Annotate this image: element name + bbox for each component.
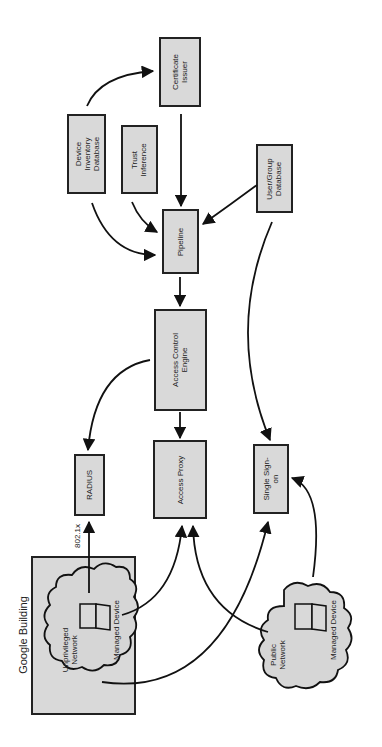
svg-text:Single Sign-: Single Sign- — [262, 457, 271, 500]
managed-device-external-label: Managed Device — [329, 599, 338, 660]
svg-text:Unprivileged: Unprivileged — [61, 628, 70, 672]
svg-text:Engine: Engine — [180, 347, 189, 372]
pipeline-node: Pipeline — [163, 210, 198, 273]
access-control-engine-node: Access Control Engine — [155, 310, 206, 410]
svg-text:Inference: Inference — [139, 143, 148, 177]
svg-text:Database: Database — [92, 136, 101, 171]
laptop-icon — [80, 604, 110, 630]
dot1x-edge-label: 802.1x — [73, 524, 82, 548]
trust-inference-node: Trust Inference — [122, 126, 157, 193]
svg-text:Public: Public — [269, 644, 278, 666]
certificate-issuer-node: Certificate Issuer — [160, 38, 200, 106]
svg-text:User/Group: User/Group — [265, 158, 274, 200]
svg-text:Database: Database — [274, 161, 283, 196]
svg-text:Network: Network — [70, 634, 79, 664]
svg-text:Network: Network — [278, 639, 287, 669]
google-building-label: Google Building — [17, 596, 29, 674]
svg-text:Trust: Trust — [130, 150, 139, 169]
svg-text:Access Control: Access Control — [171, 333, 180, 387]
single-sign-on-node: Single Sign- on — [254, 445, 288, 513]
radius-node: RADIUS — [75, 455, 104, 515]
svg-text:Access Proxy: Access Proxy — [176, 456, 185, 504]
svg-text:RADIUS: RADIUS — [85, 470, 94, 500]
managed-device-internal-label: Managed Device — [112, 599, 121, 660]
svg-text:Certificate: Certificate — [171, 53, 180, 90]
access-proxy-node: Access Proxy — [154, 441, 206, 518]
svg-text:Inventory: Inventory — [83, 138, 92, 171]
svg-text:on: on — [271, 475, 280, 484]
svg-text:Device: Device — [74, 141, 83, 166]
svg-text:Pipeline: Pipeline — [176, 227, 185, 256]
user-group-database-node: User/Group Database — [257, 145, 292, 212]
architecture-diagram: Google Building Unprivileged Network Man… — [0, 0, 382, 747]
laptop-icon — [295, 604, 326, 631]
svg-text:Issuer: Issuer — [180, 61, 189, 83]
public-network-cloud: Public Network Managed Device — [259, 583, 352, 688]
device-inventory-database-node: Device Inventory Database — [68, 115, 105, 193]
